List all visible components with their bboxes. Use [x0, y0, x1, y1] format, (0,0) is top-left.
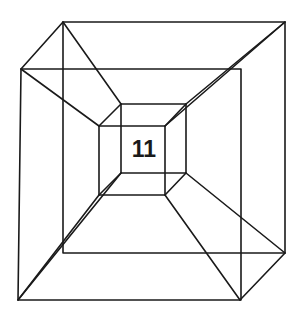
figure-number-label: 11	[121, 134, 167, 164]
tesseract-figure: 11	[0, 0, 301, 322]
outer-back-square	[63, 22, 285, 253]
